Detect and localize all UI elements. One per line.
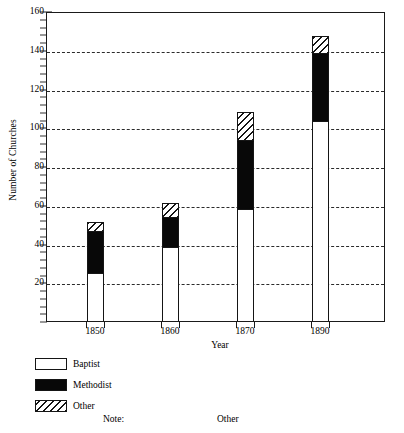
bar-1850 [87,222,104,321]
legend-swatch-baptist-icon [35,358,67,370]
y-tick-label-60: 60 [10,201,44,211]
legend: Baptist Methodist Other [35,353,215,416]
bar-1890-segment-methodist [312,54,329,122]
legend-item-methodist: Methodist [35,374,215,395]
legend-swatch-methodist-icon [35,379,67,391]
bar-1870-segment-baptist [237,209,254,321]
bar-1850-segment-baptist [87,273,104,321]
y-tick-label-80: 80 [10,162,44,172]
gridline-140 [47,52,384,53]
x-tick-label-1870: 1870 [220,326,270,336]
y-tick-label-20: 20 [10,279,44,289]
bar-1870-segment-other [237,112,254,141]
x-tick-label-1890: 1890 [295,326,345,336]
legend-item-baptist: Baptist [35,353,215,374]
bar-1870-segment-methodist [237,141,254,209]
bar-1850-segment-other [87,222,104,232]
plot-area [46,12,385,322]
y-tick-label-120: 120 [10,85,44,95]
y-tick-label-40: 40 [10,240,44,250]
gridline-120 [47,91,384,92]
footer-other-label: Other [217,414,239,424]
bar-1890-segment-other [312,36,329,53]
y-tick-label-140: 140 [10,46,44,56]
bar-1890 [312,36,329,321]
church-counts-stacked-bar-chart: Number of Churches 160 140 120 100 80 60… [0,0,404,433]
legend-label-methodist: Methodist [73,380,112,390]
gridline-100 [47,129,384,130]
bar-1860-segment-baptist [162,247,179,321]
bar-1860-segment-methodist [162,218,179,247]
gridline-80 [47,168,384,169]
y-tick-label-100: 100 [10,124,44,134]
y-tick-label-160: 160 [10,7,44,17]
legend-label-other: Other [73,401,95,411]
bar-1890-segment-baptist [312,121,329,321]
legend-item-other: Other [35,395,215,416]
bar-1860 [162,203,179,321]
y-axis-title: Number of Churches [8,85,18,235]
bar-1850-segment-methodist [87,232,104,273]
bar-1870 [237,112,254,321]
legend-label-baptist: Baptist [73,359,100,369]
x-tick-label-1850: 1850 [70,326,120,336]
legend-swatch-other-icon [35,400,67,412]
x-tick-label-1860: 1860 [145,326,195,336]
x-axis-title: Year [190,340,250,350]
footer-note-label: Note: [103,414,124,424]
bar-1860-segment-other [162,203,179,219]
gridline-60 [47,207,384,208]
